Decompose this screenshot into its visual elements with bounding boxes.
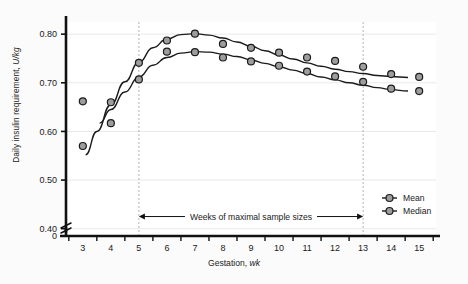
plot-area: [66, 22, 436, 236]
x-tick-label-11: 11: [302, 243, 311, 253]
x-tick-label-5: 5: [136, 243, 141, 253]
data-point: [332, 57, 339, 64]
x-axis-label-text: Gestation, wk: [208, 258, 260, 268]
data-point: [304, 54, 311, 61]
x-tick-label-13: 13: [358, 243, 368, 253]
x-tick-label-10: 10: [274, 243, 284, 253]
legend-marker-median: [386, 208, 393, 215]
x-tick-label-7: 7: [192, 243, 197, 253]
y-tick-label-0.70: 0.70: [39, 78, 57, 88]
legend-marker-mean: [386, 195, 393, 202]
y-axis-label: Daily insulin requirement, U/kg: [11, 15, 21, 195]
data-point: [135, 76, 142, 83]
data-point: [388, 71, 395, 78]
data-point: [219, 40, 226, 47]
x-tick-label-14: 14: [386, 243, 396, 253]
x-tick-label-8: 8: [220, 243, 225, 253]
y-tick-label-0.60: 0.60: [39, 127, 57, 137]
data-point: [135, 59, 142, 66]
data-point: [360, 78, 367, 85]
y-tick-label-0.50: 0.50: [39, 175, 57, 185]
y-axis-label-text: Daily insulin requirement, U/kg: [11, 47, 21, 163]
y-tick-label-0.80: 0.80: [39, 29, 57, 39]
data-point: [163, 48, 170, 55]
legend-item-mean[interactable]: Mean: [382, 193, 425, 203]
data-point: [248, 44, 255, 51]
annotation-text: Weeks of maximal sample sizes: [190, 212, 312, 222]
data-point: [388, 85, 395, 92]
data-point: [107, 99, 114, 106]
legend-label-mean: Mean: [403, 193, 425, 203]
data-point: [79, 98, 86, 105]
data-point: [79, 143, 86, 150]
data-point: [276, 62, 283, 69]
legend-item-median[interactable]: Median: [382, 206, 431, 216]
data-point: [191, 30, 198, 37]
data-point: [276, 49, 283, 56]
data-point: [163, 37, 170, 44]
x-tick-label-4: 4: [108, 243, 113, 253]
data-point: [416, 88, 423, 95]
legend-label-median: Median: [403, 206, 431, 216]
data-point: [219, 54, 226, 61]
x-tick-label-9: 9: [248, 243, 253, 253]
x-tick-label-6: 6: [164, 243, 169, 253]
data-point: [332, 73, 339, 80]
data-point: [191, 49, 198, 56]
chart-figure: 0.400.500.600.700.8003456789101112131415…: [0, 0, 468, 284]
data-point: [304, 68, 311, 75]
y-tick-label-0: 0: [52, 231, 57, 241]
data-point: [248, 58, 255, 65]
x-tick-label-15: 15: [414, 243, 424, 253]
data-point: [107, 120, 114, 127]
data-point: [360, 63, 367, 70]
data-point: [416, 73, 423, 80]
x-tick-label-12: 12: [330, 243, 340, 253]
x-axis-label: Gestation, wk: [0, 258, 468, 268]
insulin-requirement-scatter-chart: 0.400.500.600.700.8003456789101112131415…: [0, 0, 468, 284]
x-tick-label-3: 3: [80, 243, 85, 253]
